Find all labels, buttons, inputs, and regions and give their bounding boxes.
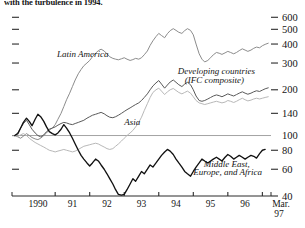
annotation-europe-and-africa: Europe, and Africa: [192, 167, 262, 177]
x-axis-labels-group: 1990919293949596Mar.97: [28, 199, 289, 219]
x-axis-label-91: 91: [68, 199, 78, 209]
y-axis-label-400: 400: [282, 39, 298, 50]
x-axis-label-95: 95: [206, 199, 216, 209]
x-axis-label-93: 93: [137, 199, 147, 209]
y-axis-label-600: 600: [282, 12, 298, 23]
x-axis-label-92: 92: [102, 199, 112, 209]
series-line-developing-countries-ifc-composite: [15, 80, 268, 137]
y-axis-label-300: 300: [282, 58, 298, 69]
annotation-ifc-composite: (IFC composite): [185, 75, 244, 85]
y-axis-label-200: 200: [282, 84, 298, 95]
series-line-asia: [15, 88, 268, 152]
y-axis-label-140: 140: [282, 108, 298, 119]
y-axis-label-60: 60: [282, 164, 293, 175]
annotation-latin-america: Latin America: [56, 49, 109, 59]
y-axis-label-100: 100: [282, 130, 298, 141]
x-axis-label-1990: 1990: [28, 199, 47, 209]
annotation-asia: Asia: [123, 117, 141, 127]
x-axis-label-96: 96: [240, 199, 250, 209]
x-axis-label-97: 97: [274, 209, 284, 219]
x-axis-label-mar: Mar.: [272, 199, 290, 209]
x-axis-label-94: 94: [171, 199, 181, 209]
chart-area: 600500400300200140100806040 199091929394…: [0, 0, 305, 228]
y-axis-labels-group: 600500400300200140100806040: [282, 12, 298, 202]
y-axis-label-500: 500: [282, 24, 298, 35]
y-axis-label-80: 80: [282, 145, 293, 156]
emerging-markets-index-chart: 600500400300200140100806040 199091929394…: [0, 0, 305, 228]
